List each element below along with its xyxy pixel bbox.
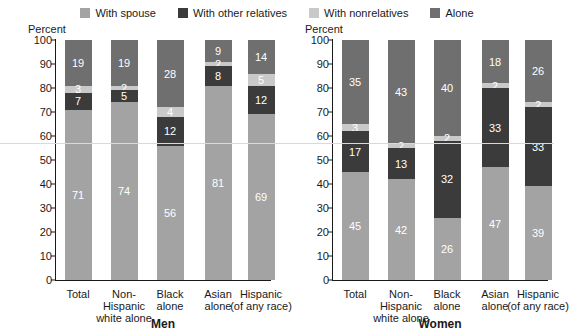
bar-segment: 45	[342, 172, 369, 280]
y-axis-tick-mark	[328, 136, 332, 137]
bar-segment-value: 33	[482, 122, 509, 133]
bar-segment-value: 56	[157, 207, 184, 218]
bar-segment-value: 8	[205, 70, 232, 81]
y-axis-tick-label: 90	[10, 59, 56, 70]
bar-segment-value: 26	[525, 66, 552, 77]
x-axis-labels-men: TotalNon-Hispanicwhite aloneBlackaloneAs…	[56, 284, 270, 318]
y-axis-tick-label: 10	[287, 251, 333, 262]
square-swatch-icon	[309, 8, 319, 18]
stacked-bar: 192574	[111, 40, 138, 280]
stacked-bar: 193771	[65, 40, 92, 280]
bar-segment: 69	[248, 114, 275, 280]
bar-segment-value: 19	[65, 57, 92, 68]
bar-segment: 43	[388, 40, 415, 143]
y-axis-tick-label: 100	[287, 35, 333, 46]
bar-segment: 32	[434, 141, 461, 218]
y-axis-tick-mark	[328, 184, 332, 185]
y-axis-tick-mark	[51, 256, 55, 257]
y-axis-tick-label: 30	[10, 203, 56, 214]
y-axis-tick-mark	[51, 88, 55, 89]
y-axis-tick-mark	[51, 136, 55, 137]
legend-item: With spouse	[80, 8, 156, 19]
y-axis-tick-mark	[328, 64, 332, 65]
chart-legend: With spouseWith other relativesWith nonr…	[0, 5, 554, 21]
y-axis-tick-label: 50	[10, 155, 56, 166]
bar-segment-value: 26	[434, 243, 461, 254]
stacked-bar: 1451269	[248, 40, 275, 280]
y-axis-tick-label: 70	[287, 107, 333, 118]
bar-segment: 42	[388, 179, 415, 280]
bar-segment-value: 17	[342, 146, 369, 157]
bar-segment: 19	[111, 40, 138, 86]
stacked-bar: 2623339	[525, 40, 552, 280]
bar-segment: 47	[482, 167, 509, 280]
y-axis-tick-label: 80	[287, 83, 333, 94]
y-axis-tick-label: 40	[10, 179, 56, 190]
bar-segment-value: 5	[111, 91, 138, 102]
bar-segment: 8	[205, 66, 232, 85]
legend-item-label: With spouse	[95, 8, 156, 19]
y-axis-tick-mark	[51, 64, 55, 65]
stacked-bar: 4321342	[388, 40, 415, 280]
y-axis-tick-mark	[328, 160, 332, 161]
bar-segment-value: 33	[525, 141, 552, 152]
bar-segment-value: 45	[342, 220, 369, 231]
bar-segment-value: 71	[65, 189, 92, 200]
y-axis-tick-mark	[51, 280, 55, 281]
legend-item-label: Alone	[445, 8, 473, 19]
x-axis-category-line: Hispanic	[505, 288, 571, 300]
y-axis-tick-mark	[328, 208, 332, 209]
bar-segment: 26	[525, 40, 552, 102]
y-axis-tick-label: 70	[10, 107, 56, 118]
legend-item-label: With other relatives	[193, 8, 287, 19]
y-axis-tick-mark	[51, 160, 55, 161]
bar-segment: 5	[248, 74, 275, 86]
y-axis-tick-mark	[328, 256, 332, 257]
bar-segment-value: 12	[157, 126, 184, 137]
stacked-bar: 3531745	[342, 40, 369, 280]
bar-segment: 12	[248, 86, 275, 115]
square-swatch-icon	[80, 8, 90, 18]
bar-segment-value: 5	[248, 74, 275, 85]
y-axis-tick-label: 20	[287, 227, 333, 238]
y-axis-tick-mark	[328, 88, 332, 89]
y-axis-tick-mark	[51, 112, 55, 113]
panel-title-women: Women	[333, 318, 547, 331]
bar-segment: 3	[342, 124, 369, 131]
y-axis-tick-mark	[51, 40, 55, 41]
bar-segment-value: 69	[248, 192, 275, 203]
panel-title-men: Men	[56, 318, 270, 331]
bar-segment: 19	[65, 40, 92, 86]
bar-segment: 33	[482, 88, 509, 167]
bar-segment: 39	[525, 186, 552, 280]
x-axis-category-line: (of any race)	[505, 300, 571, 312]
y-axis-tick-label: 0	[287, 275, 333, 286]
bar-segment: 74	[111, 102, 138, 280]
bar-segment-value: 81	[205, 177, 232, 188]
x-axis-line-women	[332, 280, 548, 281]
stacked-bar: 92881	[205, 40, 232, 280]
bar-segment: 3	[65, 86, 92, 93]
y-axis-tick-mark	[51, 184, 55, 185]
bar-segment: 13	[388, 148, 415, 179]
bar-segment: 7	[65, 93, 92, 110]
plot-area-men: 1009080706050403020100193771192574284125…	[56, 40, 270, 280]
square-swatch-icon	[178, 8, 188, 18]
bar-segment-value: 13	[388, 158, 415, 169]
bar-segment: 35	[342, 40, 369, 124]
y-axis-tick-label: 60	[10, 131, 56, 142]
x-axis-category-label: Hispanic(of any race)	[505, 288, 571, 312]
stacked-bar: 4023226	[434, 40, 461, 280]
bar-segment-value: 42	[388, 224, 415, 235]
bar-segment-value: 39	[525, 228, 552, 239]
square-swatch-icon	[430, 8, 440, 18]
y-axis-tick-mark	[328, 232, 332, 233]
y-axis-tick-mark	[51, 208, 55, 209]
bar-segment-value: 35	[342, 77, 369, 88]
y-axis-tick-label: 20	[10, 227, 56, 238]
y-axis-tick-mark	[328, 40, 332, 41]
plot-area-women: 1009080706050403020100353174543213424023…	[333, 40, 547, 280]
y-axis-tick-label: 0	[10, 275, 56, 286]
y-axis-tick-label: 100	[10, 35, 56, 46]
y-axis-tick-label: 10	[10, 251, 56, 262]
